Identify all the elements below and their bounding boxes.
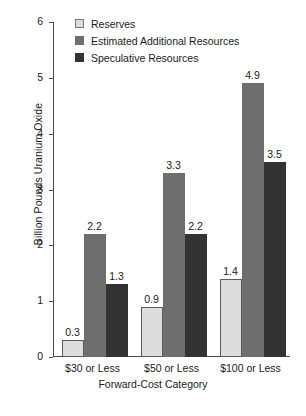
- y-axis-tick-label: 4: [21, 127, 43, 139]
- bar-item[interactable]: 3.3: [163, 22, 185, 357]
- bar-item[interactable]: 2.2: [185, 22, 207, 357]
- legend-swatch-icon: [75, 53, 84, 62]
- bar[interactable]: [106, 284, 128, 357]
- legend-label: Reserves: [91, 18, 135, 30]
- bar[interactable]: [84, 234, 106, 357]
- bar-item[interactable]: 1.4: [220, 22, 242, 357]
- y-axis-title: Billion Pounds Uranium Oxide: [32, 64, 44, 284]
- bar-item[interactable]: 2.2: [84, 22, 106, 357]
- legend: ReservesEstimated Additional ResourcesSp…: [75, 15, 239, 66]
- bar-value-label: 2.2: [188, 220, 203, 232]
- bar-chart: Billion Pounds Uranium Oxide 0123456 0.3…: [0, 0, 306, 416]
- y-axis-tick-label: 6: [21, 15, 43, 27]
- x-axis-tick-label: $30 or Less: [53, 362, 132, 374]
- y-axis-tick: [49, 357, 53, 358]
- bar-value-label: 3.3: [166, 159, 181, 171]
- plot-area: 0123456 0.32.21.30.93.32.21.44.93.5: [53, 22, 290, 357]
- bar[interactable]: [242, 83, 264, 357]
- y-axis-tick-label: 3: [21, 183, 43, 195]
- bar-item[interactable]: 3.5: [264, 22, 286, 357]
- y-axis-tick-label: 0: [21, 350, 43, 362]
- bar-item[interactable]: 0.9: [141, 22, 163, 357]
- legend-item[interactable]: Reserves: [75, 15, 239, 32]
- bar[interactable]: [264, 162, 286, 357]
- x-axis-title: Forward-Cost Category: [0, 378, 306, 390]
- bar[interactable]: [141, 307, 163, 357]
- y-axis-tick-label: 5: [21, 71, 43, 83]
- bar-series-container: 0.32.21.30.93.32.21.44.93.5: [53, 22, 290, 357]
- bar[interactable]: [220, 279, 242, 357]
- y-axis-tick-label: 2: [21, 238, 43, 250]
- legend-swatch-icon: [75, 36, 84, 45]
- bar[interactable]: [163, 173, 185, 357]
- bar[interactable]: [62, 340, 84, 357]
- bar-value-label: 4.9: [245, 69, 260, 81]
- legend-item[interactable]: Estimated Additional Resources: [75, 32, 239, 49]
- bar-value-label: 0.3: [65, 326, 80, 338]
- bar-item[interactable]: 0.3: [62, 22, 84, 357]
- legend-item[interactable]: Speculative Resources: [75, 49, 239, 66]
- bar-group: 0.93.32.2: [141, 22, 207, 357]
- legend-label: Speculative Resources: [91, 52, 198, 64]
- bar-item[interactable]: 1.3: [106, 22, 128, 357]
- bar-group: 0.32.21.3: [62, 22, 128, 357]
- bar-value-label: 1.3: [109, 270, 124, 282]
- bar-item[interactable]: 4.9: [242, 22, 264, 357]
- bar-value-label: 0.9: [144, 293, 159, 305]
- x-axis-tick-label: $50 or Less: [132, 362, 211, 374]
- bar-value-label: 2.2: [87, 220, 102, 232]
- y-axis-tick-label: 1: [21, 294, 43, 306]
- bar-group: 1.44.93.5: [220, 22, 286, 357]
- bar-value-label: 3.5: [267, 148, 282, 160]
- legend-label: Estimated Additional Resources: [91, 35, 239, 47]
- legend-swatch-icon: [75, 19, 84, 28]
- bar-value-label: 1.4: [223, 265, 238, 277]
- bar[interactable]: [185, 234, 207, 357]
- x-axis-tick-label: $100 or Less: [211, 362, 290, 374]
